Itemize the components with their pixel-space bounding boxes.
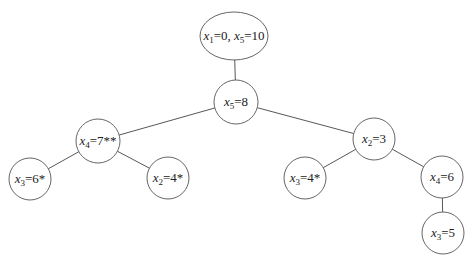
variable-value: =6: [440, 169, 454, 184]
edge-n_x5_8-to-n_x4_7: [119, 108, 215, 135]
variable-value: =10: [244, 28, 264, 43]
edge-n_x5_8-to-n_x2_3: [257, 108, 353, 134]
node-label: x3=5: [430, 225, 455, 242]
node-label: x4=7**: [78, 133, 116, 150]
tree-node-n_x2_3: x2=3: [353, 118, 395, 160]
edge-root-to-n_x5_8: [235, 60, 236, 80]
node-label: x2=3: [361, 131, 386, 148]
tree-node-n_x5_8: x5=8: [214, 80, 258, 124]
edge-n_x2_3-to-n_x3_4: [323, 149, 355, 167]
nodes-layer: x1=0, x5=10x5=8x4=7**x3=6*x2=4*x2=3x3=4*…: [9, 12, 464, 254]
edge-n_x2_3-to-n_x4_6: [392, 149, 423, 167]
node-label: x4=6: [429, 169, 455, 186]
edge-n_x4_7-to-n_x2_4: [117, 151, 149, 168]
tree-node-n_x3_4: x3=4*: [284, 157, 326, 199]
node-label: x5=8: [223, 94, 248, 111]
tree-diagram: x1=0, x5=10x5=8x4=7**x3=6*x2=4*x2=3x3=4*…: [0, 0, 475, 264]
node-label: x3=4*: [289, 170, 321, 187]
tree-node-n_x3_5: x3=5: [422, 212, 464, 254]
variable-value: =7**: [90, 133, 117, 148]
variable-value: =6*: [25, 171, 45, 186]
variable-value: =0,: [214, 28, 234, 43]
tree-node-root: x1=0, x5=10: [200, 12, 268, 60]
tree-node-n_x2_4: x2=4*: [147, 157, 189, 199]
variable-value: =4*: [300, 170, 320, 185]
variable-value: =4*: [163, 170, 183, 185]
tree-node-n_x4_7: x4=7**: [76, 119, 120, 163]
edge-n_x4_7-to-n_x3_6: [48, 152, 78, 169]
tree-node-n_x3_6: x3=6*: [9, 158, 51, 200]
node-label: x3=6*: [14, 171, 46, 188]
tree-svg: x1=0, x5=10x5=8x4=7**x3=6*x2=4*x2=3x3=4*…: [0, 0, 475, 264]
variable-value: =3: [372, 131, 386, 146]
node-label: x2=4*: [152, 170, 184, 187]
tree-node-n_x4_6: x4=6: [421, 156, 463, 198]
variable-value: =8: [234, 94, 248, 109]
variable-value: =5: [441, 225, 455, 240]
